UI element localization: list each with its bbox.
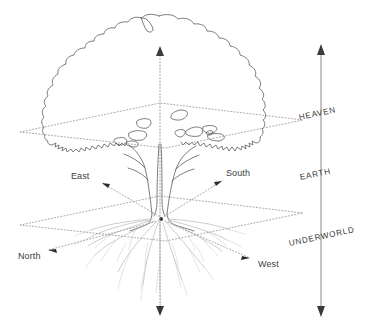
world-axis-up-arrowhead <box>156 46 164 56</box>
south-arrowhead <box>214 181 222 186</box>
direction-label-east: East <box>71 172 89 181</box>
direction-label-north: North <box>18 252 41 261</box>
tree-canopy <box>42 14 266 152</box>
cosmology-diagram: East South North West HEAVEN EARTH UNDER… <box>0 0 367 335</box>
heaven-plane <box>20 103 303 148</box>
direction-label-west: West <box>258 260 279 269</box>
diagram-canvas <box>0 0 367 335</box>
realm-axis-up-arrowhead <box>317 44 325 55</box>
west-arrowhead <box>241 256 250 260</box>
realm-axis-down-arrowhead <box>317 306 325 317</box>
tree-roots <box>74 219 245 306</box>
direction-label-south: South <box>226 169 250 178</box>
realm-scale-axis <box>317 44 325 317</box>
world-axis-down-arrowhead <box>156 306 164 316</box>
